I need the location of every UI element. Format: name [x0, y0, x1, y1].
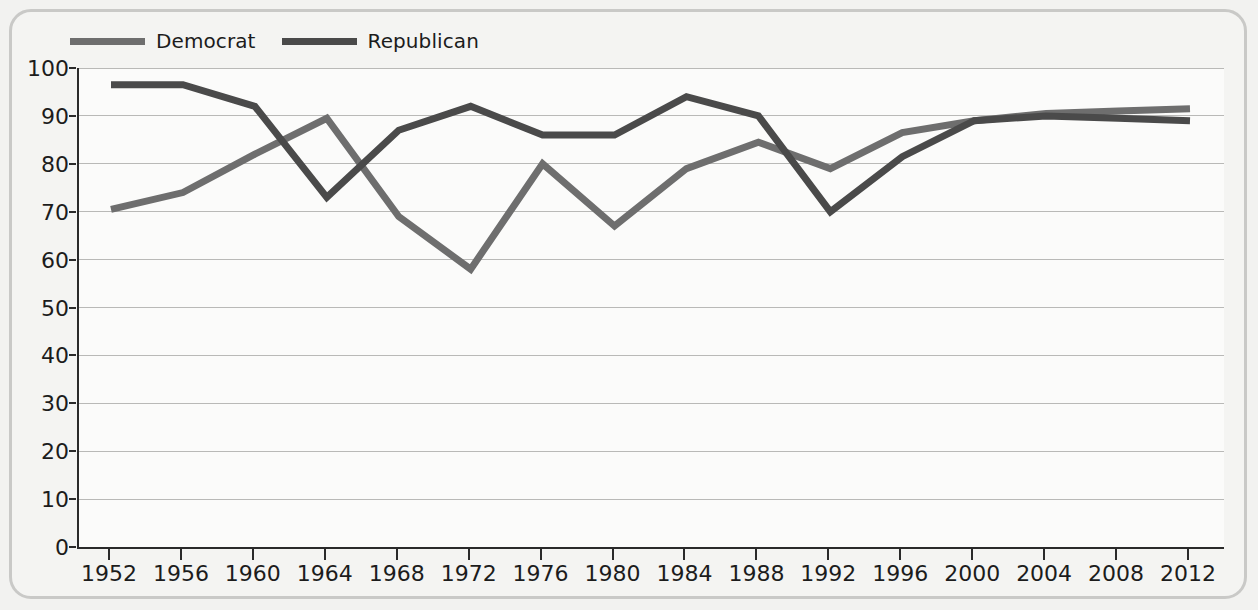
x-axis-tick-mark [755, 549, 757, 560]
y-axis-tick-mark [69, 259, 76, 261]
y-axis-tick-mark [69, 354, 76, 356]
x-axis-tick-label: 1996 [872, 561, 928, 586]
chart-figure: DemocratRepublican 010203040506070809010… [0, 0, 1258, 610]
y-axis-tick-label: 30 [9, 391, 69, 416]
legend-label: Democrat [156, 31, 256, 51]
x-axis-tick-mark [252, 549, 254, 560]
x-axis-tick-mark [396, 549, 398, 560]
x-axis-tick-mark [827, 549, 829, 560]
x-axis-tick-label: 1984 [656, 561, 712, 586]
x-axis-tick-label: 2008 [1088, 561, 1144, 586]
y-axis-tick-label: 90 [9, 103, 69, 128]
legend-swatch-icon [282, 38, 357, 45]
x-axis-tick-mark [1043, 549, 1045, 560]
x-axis-tick-mark [180, 549, 182, 560]
y-axis-tick-mark [69, 402, 76, 404]
legend-item-democrat[interactable]: Democrat [70, 31, 256, 51]
chart-lines [79, 68, 1224, 547]
y-axis-tick-mark [69, 67, 76, 69]
x-axis-tick-label: 2012 [1160, 561, 1216, 586]
x-axis-tick-mark [971, 549, 973, 560]
plot-area [77, 68, 1224, 549]
y-axis-tick-label: 100 [9, 56, 69, 81]
x-axis-tick-label: 1988 [728, 561, 784, 586]
x-axis-tick-label: 1952 [81, 561, 137, 586]
y-axis-labels: 0102030405060708090100 [5, 68, 69, 547]
x-axis-tick-label: 1956 [153, 561, 209, 586]
x-axis-tick-mark [612, 549, 614, 560]
x-axis-tick-mark [468, 549, 470, 560]
y-axis-tick-label: 50 [9, 295, 69, 320]
chart-legend: DemocratRepublican [70, 28, 505, 54]
x-axis-tick-label: 1960 [225, 561, 281, 586]
legend-label: Republican [368, 31, 479, 51]
x-axis-tick-label: 2004 [1016, 561, 1072, 586]
y-axis-tick-label: 0 [9, 535, 69, 560]
x-axis-tick-label: 1980 [585, 561, 641, 586]
y-axis-tick-mark [69, 450, 76, 452]
y-axis-tick-mark [69, 163, 76, 165]
y-axis-tick-label: 60 [9, 247, 69, 272]
x-axis-tick-mark [683, 549, 685, 560]
y-axis-tick-mark [69, 307, 76, 309]
x-axis-tick-mark [1115, 549, 1117, 560]
legend-item-republican[interactable]: Republican [282, 31, 479, 51]
x-axis-tick-mark [1187, 549, 1189, 560]
x-axis-tick-label: 1972 [441, 561, 497, 586]
y-axis-tick-mark [69, 211, 76, 213]
x-axis-tick-mark [324, 549, 326, 560]
y-axis-tick-mark [69, 115, 76, 117]
x-axis-tick-label: 2000 [944, 561, 1000, 586]
x-axis-tick-mark [108, 549, 110, 560]
x-axis-tick-label: 1968 [369, 561, 425, 586]
x-axis-tick-label: 1976 [513, 561, 569, 586]
legend-swatch-icon [70, 38, 145, 45]
y-axis-tick-label: 10 [9, 487, 69, 512]
x-axis-labels: 1952195619601964196819721976198019841988… [77, 561, 1222, 593]
x-axis-tick-label: 1964 [297, 561, 353, 586]
x-axis-tick-mark [899, 549, 901, 560]
y-axis-tick-label: 70 [9, 199, 69, 224]
y-axis-tick-mark [69, 498, 76, 500]
x-axis-ticks [77, 549, 1222, 561]
y-axis-tick-label: 20 [9, 439, 69, 464]
y-axis-tick-mark [69, 546, 76, 548]
y-axis-tick-label: 80 [9, 151, 69, 176]
x-axis-tick-mark [540, 549, 542, 560]
y-axis-tick-label: 40 [9, 343, 69, 368]
x-axis-tick-label: 1992 [800, 561, 856, 586]
